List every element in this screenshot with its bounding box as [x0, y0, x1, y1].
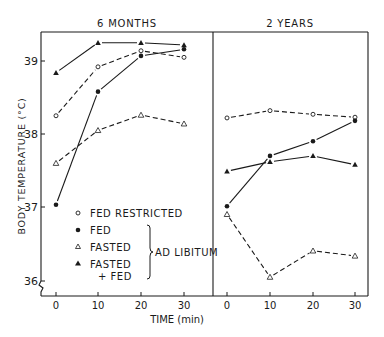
xtick-0-right: 0 [224, 300, 230, 311]
ytick-36: 36 [24, 275, 38, 288]
brace-icon [147, 225, 153, 279]
open-triangle-icon [53, 160, 59, 165]
open-circle-icon [76, 211, 80, 215]
filled-circle-icon [182, 47, 187, 52]
open-triangle-icon [310, 248, 316, 253]
series-fed-6mo [54, 47, 187, 207]
filled-circle-icon [353, 119, 358, 124]
legend-ad-libitum: AD LIBITUM [155, 247, 218, 258]
filled-circle-icon [225, 204, 230, 209]
open-circle-icon [54, 114, 58, 118]
open-triangle-icon [76, 244, 81, 249]
panel-title-6-months: 6 MONTHS [97, 18, 157, 29]
filled-circle-icon [76, 228, 81, 233]
legend-fasted: FASTED [90, 242, 131, 253]
filled-triangle-icon [352, 162, 358, 167]
open-triangle-icon [138, 112, 144, 117]
x-axis-label: TIME (min) [149, 314, 204, 325]
xtick-10-left: 10 [92, 300, 105, 311]
filled-circle-icon [268, 154, 273, 159]
legend: FED RESTRICTED FED FASTED FASTED + FED A… [75, 208, 218, 282]
filled-triangle-icon [138, 40, 144, 45]
open-circle-icon [96, 65, 100, 69]
series-fed-2yr [225, 119, 358, 209]
legend-fed: FED [90, 225, 111, 236]
open-circle-icon [182, 55, 186, 59]
open-triangle-icon [95, 128, 101, 133]
open-triangle-icon [352, 253, 358, 258]
filled-circle-icon [311, 139, 316, 144]
legend-fasted-fed: FASTED [90, 259, 131, 270]
open-circle-icon [311, 112, 315, 116]
open-triangle-icon [267, 274, 273, 279]
series-fasted-fed-6mo [53, 40, 187, 75]
ytick-39: 39 [24, 55, 38, 68]
y-axis-label: BODY TEMPERATURE (°C) [16, 97, 27, 234]
open-circle-icon [139, 49, 143, 53]
xtick-20-left: 20 [135, 300, 148, 311]
filled-triangle-icon [267, 159, 273, 164]
filled-triangle-icon [181, 42, 187, 47]
panel-title-2-years: 2 YEARS [266, 18, 314, 29]
legend-fed-restricted: FED RESTRICTED [90, 208, 183, 219]
open-circle-icon [225, 116, 229, 120]
open-circle-icon [268, 109, 272, 113]
xtick-0-left: 0 [53, 300, 59, 311]
xtick-20-right: 20 [307, 300, 320, 311]
body-temperature-chart: 39 38 37 36 0 10 20 30 0 10 20 30 6 MONT… [0, 0, 384, 337]
x-axis [56, 292, 355, 296]
open-triangle-icon [224, 212, 230, 217]
filled-triangle-icon [53, 70, 59, 75]
xtick-10-right: 10 [264, 300, 277, 311]
series-fed-restricted-6mo [54, 49, 186, 118]
xtick-30-right: 30 [349, 300, 362, 311]
series-fed-restricted-2yr [225, 109, 357, 120]
filled-circle-icon [139, 54, 144, 59]
legend-fasted-fed-2: + FED [98, 271, 132, 282]
filled-circle-icon [54, 203, 59, 208]
xtick-30-left: 30 [178, 300, 191, 311]
y-axis [41, 61, 45, 281]
filled-circle-icon [96, 89, 101, 94]
series-fasted-fed-2yr [224, 153, 358, 173]
series-fasted-2yr [224, 212, 358, 280]
filled-triangle-icon [224, 168, 230, 173]
filled-triangle-icon [95, 40, 101, 45]
filled-triangle-icon [310, 153, 316, 158]
open-triangle-icon [181, 121, 187, 126]
filled-triangle-icon [75, 261, 81, 266]
